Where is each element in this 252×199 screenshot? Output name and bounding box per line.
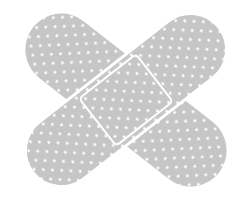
crossed-bandages-icon xyxy=(0,0,252,199)
